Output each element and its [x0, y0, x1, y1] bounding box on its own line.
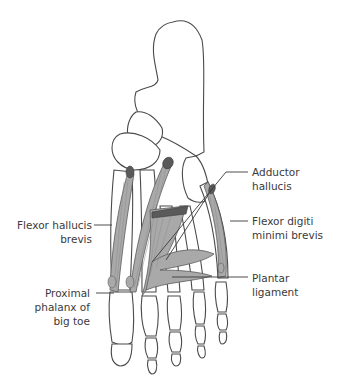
label-line: Flexor digiti — [252, 214, 323, 228]
label-plantar-ligament: Plantar ligament — [252, 271, 298, 299]
attachment-1 — [126, 166, 134, 178]
toe-5-distal — [219, 332, 227, 344]
label-line: minimi brevis — [252, 228, 323, 242]
toe-2-proximal — [141, 296, 158, 336]
fdmb-insertion — [218, 263, 224, 273]
big-toe-distal-phalanx — [111, 344, 132, 366]
toe-4-proximal — [193, 292, 205, 324]
label-line: Proximal — [35, 286, 90, 300]
label-line: brevis — [17, 232, 92, 246]
toe-3-distal — [171, 354, 180, 366]
toe-3-middle — [169, 332, 181, 352]
label-line: hallucis — [252, 179, 300, 193]
sesamoid-1 — [108, 276, 116, 288]
leader-adductor — [212, 172, 248, 189]
toe-2-distal — [147, 360, 156, 374]
label-line: big toe — [35, 314, 90, 328]
label-adductor-hallucis: Adductor hallucis — [252, 165, 300, 193]
label-line: Adductor — [252, 165, 300, 179]
foot-muscle-diagram: Adductor hallucis Flexor hallucis brevis… — [0, 0, 338, 377]
toe-4-distal — [197, 346, 205, 358]
label-flexor-hallucis-brevis: Flexor hallucis brevis — [17, 218, 92, 246]
sesamoid-2 — [126, 276, 134, 288]
label-line: phalanx of — [35, 300, 90, 314]
toe-4-middle — [195, 326, 205, 344]
label-line: Flexor hallucis — [17, 218, 92, 232]
toe-3-proximal — [167, 296, 181, 330]
label-line: Plantar — [252, 271, 298, 285]
toe-5-middle — [217, 314, 227, 330]
label-proximal-phalanx: Proximal phalanx of big toe — [35, 286, 90, 328]
toe-2-middle — [145, 338, 157, 358]
label-line: ligament — [252, 285, 298, 299]
label-flexor-digiti-minimi-brevis: Flexor digiti minimi brevis — [252, 214, 323, 242]
toe-5-proximal — [215, 282, 227, 312]
big-toe-proximal-phalanx — [109, 292, 133, 345]
